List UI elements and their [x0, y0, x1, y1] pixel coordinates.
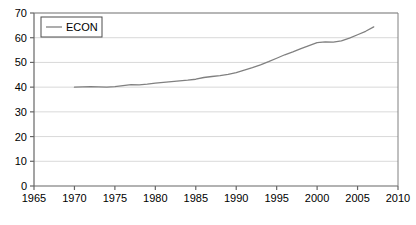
x-tick-label-2005: 2005	[345, 192, 369, 204]
x-axis: 1965197019751980198519901995200020052010	[22, 186, 410, 204]
x-tick-label-1975: 1975	[103, 192, 127, 204]
x-tick-label-2010: 2010	[386, 192, 410, 204]
y-tick-label-20: 20	[15, 131, 27, 143]
plot-area-background	[34, 13, 398, 186]
y-tick-label-40: 40	[15, 81, 27, 93]
y-tick-label-50: 50	[15, 56, 27, 68]
legend[interactable]: ECON	[41, 17, 102, 37]
x-tick-label-1995: 1995	[264, 192, 288, 204]
legend-item-label: ECON	[66, 21, 98, 33]
y-tick-label-70: 70	[15, 7, 27, 19]
x-tick-label-1980: 1980	[143, 192, 167, 204]
line-chart: 010203040506070 196519701975198019851990…	[0, 0, 416, 225]
y-tick-label-10: 10	[15, 155, 27, 167]
x-tick-label-1985: 1985	[184, 192, 208, 204]
x-tick-label-2000: 2000	[305, 192, 329, 204]
y-axis: 010203040506070	[15, 7, 34, 192]
x-tick-label-1965: 1965	[22, 192, 46, 204]
y-tick-label-0: 0	[21, 180, 27, 192]
x-tick-label-1970: 1970	[62, 192, 86, 204]
chart-container: 010203040506070 196519701975198019851990…	[0, 0, 416, 225]
x-tick-label-1990: 1990	[224, 192, 248, 204]
y-tick-label-60: 60	[15, 32, 27, 44]
y-tick-label-30: 30	[15, 106, 27, 118]
